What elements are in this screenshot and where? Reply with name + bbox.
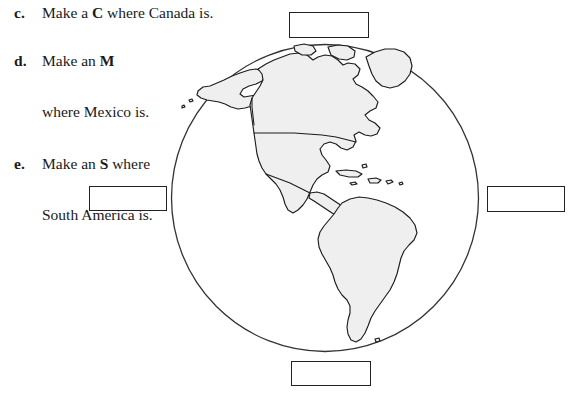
instruction-marker-d: d. (14, 49, 27, 73)
instruction-text-e-line-1-after: where (108, 155, 150, 172)
landmass-lesser-antilles-1 (399, 182, 403, 185)
instruction-text-c-line-1-after: where Canada is. (103, 4, 213, 21)
answer-box-left[interactable] (89, 186, 167, 211)
instruction-text-e-line-1-before: Make an (42, 155, 100, 172)
answer-box-top-value (290, 13, 368, 37)
instruction-marker-c: c. (14, 1, 25, 25)
landmass-hispaniola (368, 178, 381, 183)
landmass-bahamas (362, 164, 367, 168)
globe-svg (170, 43, 480, 353)
instruction-item-c: c. Make a C where Canada is. (0, 1, 285, 25)
landmass-aleutian-1 (189, 99, 193, 102)
landmass-aleutian-2 (182, 105, 185, 108)
answer-box-bottom[interactable] (291, 361, 371, 386)
worksheet-page: c. Make a C where Canada is. d. Make an … (0, 0, 572, 397)
instruction-text-c-line-1-before: Make a (42, 4, 92, 21)
instruction-text-d-line-1-before: Make an (42, 52, 100, 69)
answer-box-left-value (90, 187, 166, 210)
answer-box-bottom-value (292, 362, 370, 385)
answer-box-right[interactable] (487, 186, 565, 212)
landmass-falklands (375, 338, 380, 342)
instruction-text-d-line-1: Make an M (42, 49, 114, 73)
answer-box-top[interactable] (289, 12, 369, 38)
instruction-emphasis-d: M (100, 52, 115, 69)
instruction-marker-e: e. (14, 152, 25, 176)
globe-diagram (170, 43, 480, 353)
instruction-text-d-line-2: where Mexico is. (42, 100, 149, 124)
instruction-emphasis-c: C (92, 4, 103, 21)
instruction-text-e-line-1: Make an S where (42, 152, 150, 176)
landmass-jamaica (350, 182, 357, 185)
answer-box-right-value (488, 187, 564, 211)
instruction-text-c-line-1: Make a C where Canada is. (42, 1, 213, 25)
instruction-emphasis-e: S (100, 155, 109, 172)
